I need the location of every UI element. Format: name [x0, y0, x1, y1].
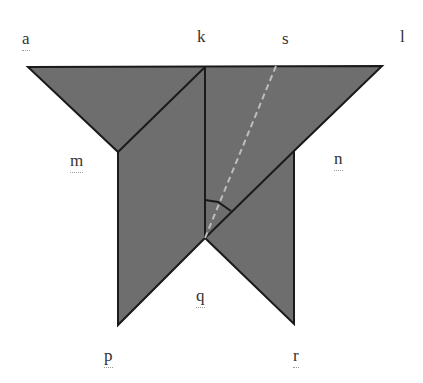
point-label-s: s [282, 30, 289, 47]
point-label-a: a [22, 30, 30, 47]
folded-shape-diagram [0, 0, 423, 383]
point-label-k: k [197, 28, 206, 45]
point-label-n: n [334, 150, 343, 167]
point-label-m: m [70, 152, 83, 169]
point-label-q: q [196, 287, 205, 304]
point-label-p: p [104, 347, 113, 364]
point-label-r: r [293, 347, 299, 364]
point-label-l: l [400, 28, 405, 45]
